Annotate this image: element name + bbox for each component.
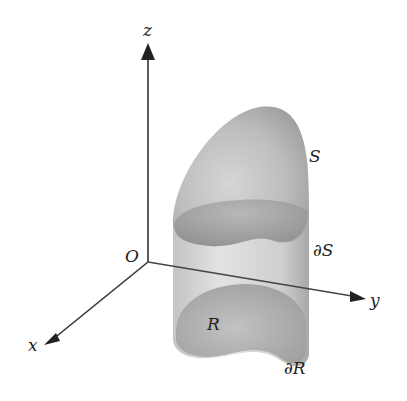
surface-diagram: z O y x S ∂S R ∂R [0,0,407,401]
z-axis [141,43,155,262]
z-axis-label: z [142,20,153,40]
surface-boundary-label: ∂S [313,240,333,260]
z-axis-arrow-icon [141,43,155,60]
origin-label: O [125,246,139,266]
y-axis-label: y [369,290,380,310]
surface-label: S [309,146,321,166]
x-axis [44,262,148,345]
region-boundary-label: ∂R [284,358,306,378]
y-axis-arrow-icon [350,291,366,302]
x-axis-label: x [28,335,38,355]
region-label: R [206,314,220,334]
